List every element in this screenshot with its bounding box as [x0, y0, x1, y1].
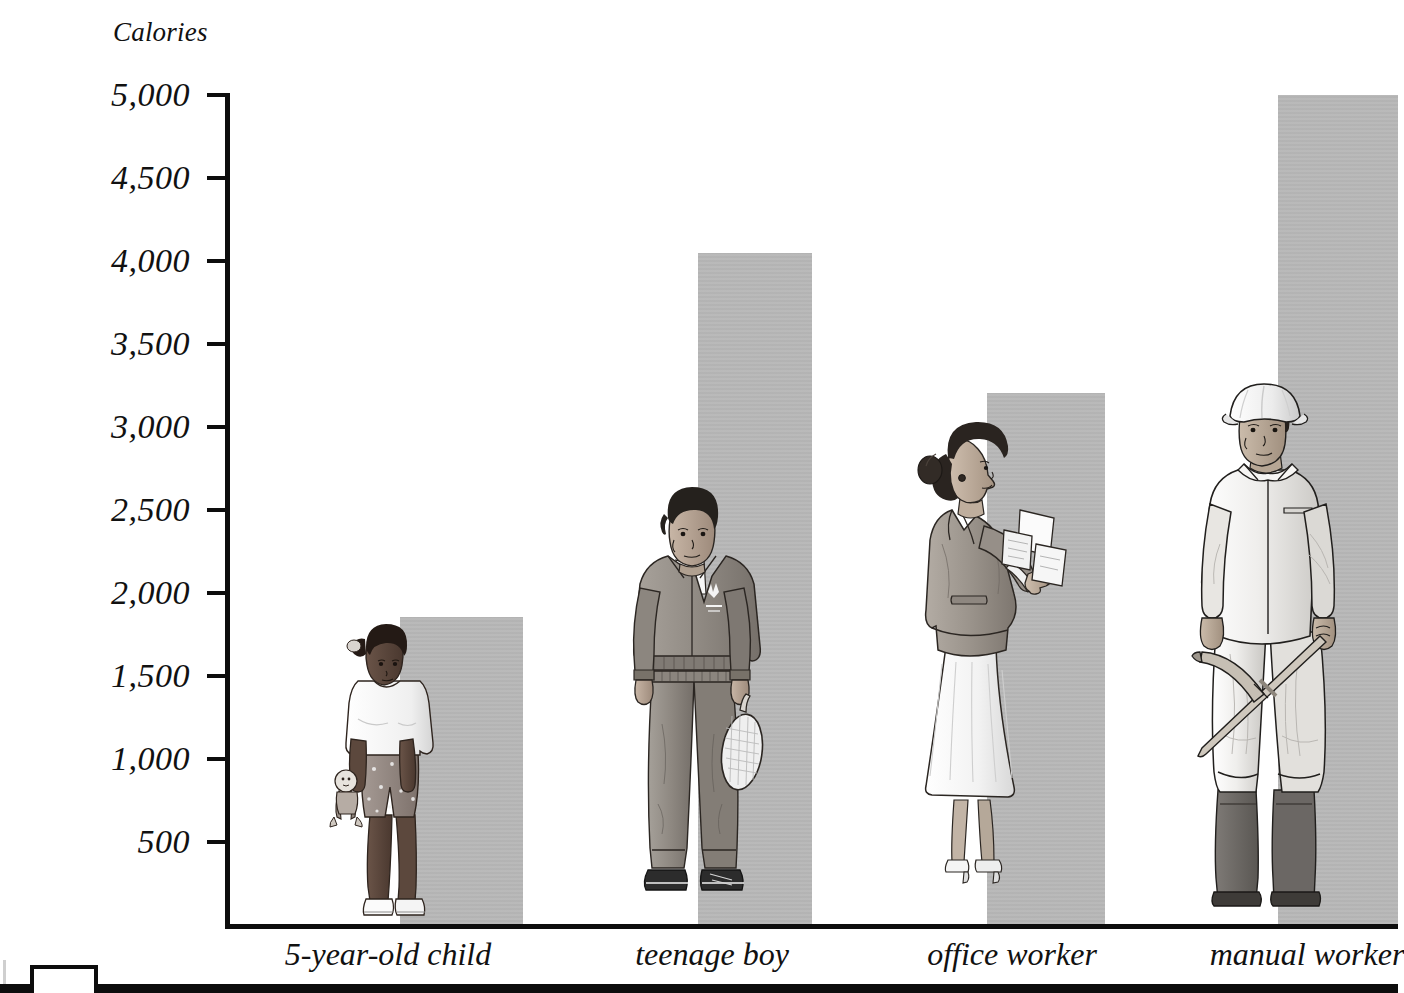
y-tick-label-4500: 4,500 [30, 159, 190, 197]
y-tick-3000 [207, 425, 227, 429]
page-edge-rule [0, 984, 1398, 993]
figure-manual-worker [1186, 384, 1376, 924]
y-tick-label-5000: 5,000 [30, 76, 190, 114]
doll [330, 770, 362, 827]
y-tick-5000 [207, 93, 227, 97]
x-axis-line [225, 924, 1398, 929]
y-tick-3500 [207, 342, 227, 346]
y-tick-1000 [207, 757, 227, 761]
child-illustration [318, 619, 458, 924]
y-tick-label-1500: 1,500 [30, 657, 190, 695]
office-worker-illustration [908, 414, 1083, 924]
y-tick-4000 [207, 259, 227, 263]
teenage-boy-illustration [622, 484, 772, 924]
manual-worker-illustration [1186, 384, 1376, 924]
y-tick-label-500: 500 [30, 823, 190, 861]
figure-teenage-boy [622, 484, 772, 924]
hard-hat [1222, 384, 1307, 425]
y-tick-label-4000: 4,000 [30, 242, 190, 280]
y-tick-2000 [207, 591, 227, 595]
y-tick-label-3000: 3,000 [30, 408, 190, 446]
page-edge-notch [30, 965, 98, 993]
y-tick-4500 [207, 176, 227, 180]
y-tick-1500 [207, 674, 227, 678]
y-tick-label-2000: 2,000 [30, 574, 190, 612]
figure-office-worker [908, 414, 1083, 924]
y-tick-500 [207, 840, 227, 844]
page-edge-decoration [0, 960, 1398, 993]
y-tick-label-1000: 1,000 [30, 740, 190, 778]
y-tick-label-2500: 2,500 [30, 491, 190, 529]
figure-child [318, 619, 458, 924]
y-tick-label-3500: 3,500 [30, 325, 190, 363]
page-edge-left-rule [3, 960, 6, 984]
y-tick-2500 [207, 508, 227, 512]
